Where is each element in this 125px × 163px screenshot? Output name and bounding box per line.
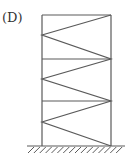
ground-hatch xyxy=(63,147,69,153)
ground-hatch xyxy=(104,147,110,153)
ground-hatch xyxy=(116,147,122,153)
ground-hatch xyxy=(46,147,52,153)
ground-hatch xyxy=(75,147,81,153)
ground-hatch xyxy=(81,147,87,153)
ground-support xyxy=(27,146,125,153)
ground-hatch xyxy=(87,147,93,153)
ground-hatch xyxy=(52,147,58,153)
ground-hatch xyxy=(34,147,40,153)
braced-frame-diagram xyxy=(0,0,125,163)
ground-hatch xyxy=(57,147,63,153)
bracing-line xyxy=(42,15,111,146)
zigzag-bracing xyxy=(42,15,111,146)
frame-columns xyxy=(42,15,111,146)
ground-hatch xyxy=(69,147,75,153)
ground-hatch xyxy=(28,147,34,153)
ground-hatch xyxy=(93,147,99,153)
ground-hatch xyxy=(40,147,46,153)
ground-hatch xyxy=(99,147,105,153)
frame-beams xyxy=(42,15,111,101)
ground-hatch xyxy=(110,147,116,153)
